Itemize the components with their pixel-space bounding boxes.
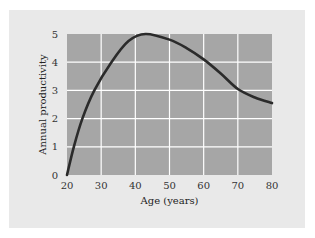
- y-tick-label: 4: [52, 57, 58, 68]
- x-tick-label: 40: [129, 180, 142, 191]
- x-tick-label: 70: [231, 180, 244, 191]
- line-chart: 20304050607080 012345 Age (years) Annual…: [0, 0, 315, 238]
- x-tick-label: 60: [197, 180, 210, 191]
- x-tick-label: 30: [95, 180, 108, 191]
- x-axis-ticks: 20304050607080: [61, 180, 279, 191]
- y-tick-label: 2: [52, 113, 58, 124]
- y-axis-ticks: 012345: [52, 29, 58, 181]
- y-tick-label: 1: [52, 141, 58, 152]
- y-tick-label: 3: [52, 85, 58, 96]
- y-tick-label: 0: [52, 170, 58, 181]
- y-axis-label: Annual productivity: [37, 54, 48, 156]
- x-axis-label: Age (years): [140, 195, 199, 206]
- x-tick-label: 20: [61, 180, 74, 191]
- x-tick-label: 50: [163, 180, 176, 191]
- x-tick-label: 80: [266, 180, 279, 191]
- y-tick-label: 5: [52, 29, 58, 40]
